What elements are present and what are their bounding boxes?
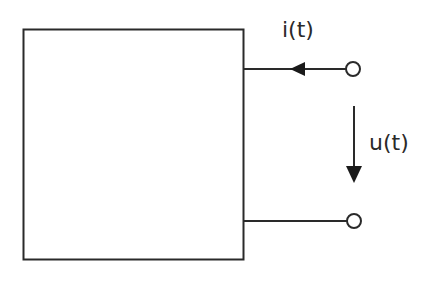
upper-terminal	[346, 62, 360, 76]
voltage-label: u(t)	[369, 132, 409, 154]
lower-terminal	[347, 214, 361, 228]
circuit-diagram: i(t) u(t)	[0, 0, 438, 283]
current-label: i(t)	[282, 19, 314, 41]
current-arrow-icon	[290, 62, 305, 76]
voltage-arrow-icon	[346, 166, 362, 183]
network-block	[24, 30, 244, 260]
